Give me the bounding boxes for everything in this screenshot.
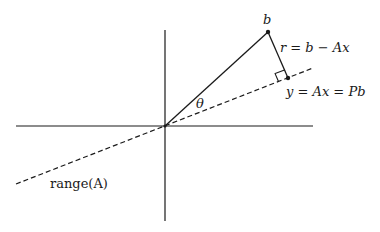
label-residual: r = b − Ax (280, 40, 350, 55)
point-projection (286, 76, 290, 80)
residual-vector (268, 32, 288, 78)
label-projection: y = Ax = Pb (285, 84, 365, 99)
point-b (266, 30, 270, 34)
vector-b (165, 32, 268, 126)
origin-point (163, 124, 166, 127)
least-squares-projection-diagram: b r = b − Ax y = Ax = Pb θ range(A) (0, 0, 380, 232)
label-range: range(A) (50, 176, 108, 191)
right-angle-marker (275, 70, 284, 82)
label-b: b (263, 12, 271, 27)
label-theta: θ (196, 96, 204, 111)
